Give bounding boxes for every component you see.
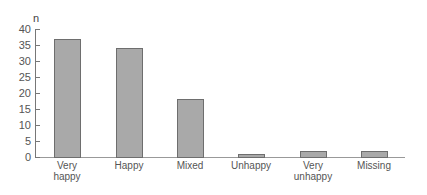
bar [177,99,204,158]
y-tick [35,125,40,126]
y-tick-label: 15 [7,103,31,115]
x-category-label: Mixed [160,160,220,171]
x-category-label: Very unhappy [283,160,343,182]
y-tick [35,29,40,30]
y-tick-label: 5 [7,135,31,147]
bar [116,48,143,158]
y-tick-label: 20 [7,87,31,99]
y-tick [35,45,40,46]
x-category-label: Happy [99,160,159,171]
bar [300,151,327,158]
x-category-label: Very happy [37,160,97,182]
y-tick-label: 0 [7,151,31,163]
x-category-label: Missing [344,160,404,171]
y-tick-label: 25 [7,71,31,83]
y-tick [35,109,40,110]
x-axis [35,157,405,158]
y-tick [35,93,40,94]
bar [361,151,388,158]
y-tick-label: 35 [7,39,31,51]
y-axis-label: n [33,12,39,24]
y-tick [35,77,40,78]
bar [238,154,265,158]
y-tick-label: 10 [7,119,31,131]
y-tick-label: 40 [7,23,31,35]
y-tick [35,157,40,158]
bar-chart: n 0510152025303540 Very happyHappyMixedU… [0,0,427,195]
x-category-label: Unhappy [221,160,281,171]
y-tick [35,141,40,142]
bar [54,39,81,158]
y-tick [35,61,40,62]
y-tick-label: 30 [7,55,31,67]
